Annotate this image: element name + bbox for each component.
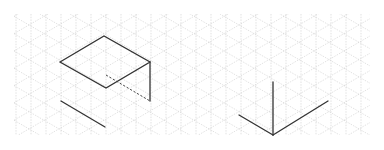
grid-diagonal-line xyxy=(14,0,370,16)
grid-diagonal-line xyxy=(14,0,370,66)
grid-diagonal-line xyxy=(14,0,370,150)
grid-diagonal-line xyxy=(14,34,370,150)
grid-diagonal-line xyxy=(14,0,370,34)
grid-diagonal-line xyxy=(14,0,370,138)
grid-diagonal-line xyxy=(14,103,370,150)
grid-diagonal-line xyxy=(14,138,370,150)
grid-diagonal-line xyxy=(14,0,370,51)
grid-diagonal-line xyxy=(14,0,370,150)
grid-diagonal-line xyxy=(14,1,370,150)
grid-diagonal-line xyxy=(14,0,370,150)
grid-diagonal-line xyxy=(14,0,370,31)
grid-diagonal-line xyxy=(14,86,370,150)
grid-diagonal-line xyxy=(14,0,370,150)
grid-diagonal-line xyxy=(14,140,370,150)
grid-diagonal-line xyxy=(14,0,370,14)
isometric-grid xyxy=(14,0,370,150)
grid-diagonal-line xyxy=(14,0,370,83)
grid-diagonal-line xyxy=(14,0,370,49)
grid-diagonal-line xyxy=(14,71,370,150)
grid-diagonal-line xyxy=(14,68,370,150)
grid-diagonal-line xyxy=(14,0,370,150)
grid-diagonal-line xyxy=(14,0,370,150)
grid-diagonal-line xyxy=(14,123,370,150)
grid-diagonal-line xyxy=(14,0,370,135)
grid-diagonal-line xyxy=(14,105,370,150)
figures-layer xyxy=(60,36,328,135)
grid-diagonal-line xyxy=(14,36,370,150)
grid-diagonal-line xyxy=(14,120,370,150)
bottom-left-segment xyxy=(61,101,105,127)
grid-diagonal-line xyxy=(14,0,370,86)
grid-diagonal-line xyxy=(14,16,370,150)
open-box-hidden-edge xyxy=(106,75,150,101)
isometric-drawing-canvas xyxy=(0,0,384,150)
open-box-top-face xyxy=(60,36,150,88)
grid-diagonal-line xyxy=(14,0,370,150)
